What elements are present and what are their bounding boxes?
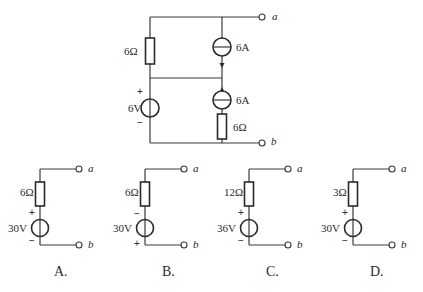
current-source-top-label: 6A bbox=[236, 41, 250, 53]
resistor-left-label: 6Ω bbox=[124, 45, 138, 57]
option-c-bottom-sign: − bbox=[238, 235, 244, 246]
option-b-terminal-b bbox=[181, 242, 187, 248]
option-a-resistor bbox=[36, 182, 45, 206]
option-d-resistor bbox=[349, 182, 358, 206]
resistor-right-label: 6Ω bbox=[233, 121, 247, 133]
option-c-label[interactable]: C. bbox=[266, 264, 279, 279]
option-a: 6Ω + 30V − a b A. bbox=[8, 162, 94, 279]
terminal-a-label: a bbox=[272, 10, 278, 22]
option-c-terminal-a bbox=[285, 166, 291, 172]
option-a-terminal-a-label: a bbox=[88, 162, 94, 174]
option-c: 12Ω + 36V − a b C. bbox=[217, 162, 303, 279]
option-a-voltage-label: 30V bbox=[8, 222, 27, 234]
current-source-bottom-label: 6A bbox=[236, 94, 250, 106]
option-d: 3Ω + 30V − a b D. bbox=[321, 162, 407, 279]
option-c-top-sign: + bbox=[238, 207, 244, 218]
option-d-bottom-sign: − bbox=[342, 235, 348, 246]
option-a-resistor-label: 6Ω bbox=[20, 186, 34, 198]
terminal-b bbox=[259, 140, 265, 146]
option-a-terminal-a bbox=[76, 166, 82, 172]
option-a-terminal-b-label: b bbox=[88, 238, 94, 250]
option-b-terminal-b-label: b bbox=[193, 238, 199, 250]
arrow-down-icon bbox=[220, 63, 225, 68]
voltage-plus-sign: + bbox=[137, 86, 143, 97]
option-c-terminal-b bbox=[285, 242, 291, 248]
circuit-diagram: 6Ω + 6V − 6A 6A 6Ω a b 6Ω + bbox=[0, 0, 423, 292]
option-c-terminal-b-label: b bbox=[297, 238, 303, 250]
option-d-top-sign: + bbox=[342, 207, 348, 218]
option-b-resistor bbox=[141, 182, 150, 206]
option-b: 6Ω − 30V + a b B. bbox=[113, 162, 199, 279]
option-d-terminal-a bbox=[389, 166, 395, 172]
main-circuit: 6Ω + 6V − 6A 6A 6Ω a b bbox=[124, 10, 278, 147]
resistor-left bbox=[146, 38, 155, 64]
option-b-resistor-label: 6Ω bbox=[125, 186, 139, 198]
option-c-resistor bbox=[245, 182, 254, 206]
option-a-label[interactable]: A. bbox=[54, 264, 68, 279]
terminal-b-label: b bbox=[271, 135, 277, 147]
option-b-terminal-a-label: a bbox=[193, 162, 199, 174]
option-d-voltage-label: 30V bbox=[321, 222, 340, 234]
option-d-terminal-b-label: b bbox=[401, 238, 407, 250]
voltage-source-label: 6V bbox=[128, 102, 142, 114]
option-a-top-sign: + bbox=[29, 207, 35, 218]
resistor-right bbox=[218, 114, 227, 139]
option-a-bottom-sign: − bbox=[29, 235, 35, 246]
option-d-resistor-label: 3Ω bbox=[333, 186, 347, 198]
option-b-top-sign: − bbox=[134, 208, 140, 219]
option-b-voltage-label: 30V bbox=[113, 222, 132, 234]
option-d-terminal-b bbox=[389, 242, 395, 248]
option-d-terminal-a-label: a bbox=[401, 162, 407, 174]
option-b-bottom-sign: + bbox=[134, 238, 140, 249]
voltage-minus-sign: − bbox=[137, 117, 143, 128]
option-c-terminal-a-label: a bbox=[297, 162, 303, 174]
option-a-terminal-b bbox=[76, 242, 82, 248]
option-b-terminal-a bbox=[181, 166, 187, 172]
option-c-voltage-label: 36V bbox=[217, 222, 236, 234]
option-c-resistor-label: 12Ω bbox=[224, 186, 243, 198]
option-d-label[interactable]: D. bbox=[370, 264, 384, 279]
terminal-a bbox=[259, 14, 265, 20]
option-b-label[interactable]: B. bbox=[162, 264, 175, 279]
